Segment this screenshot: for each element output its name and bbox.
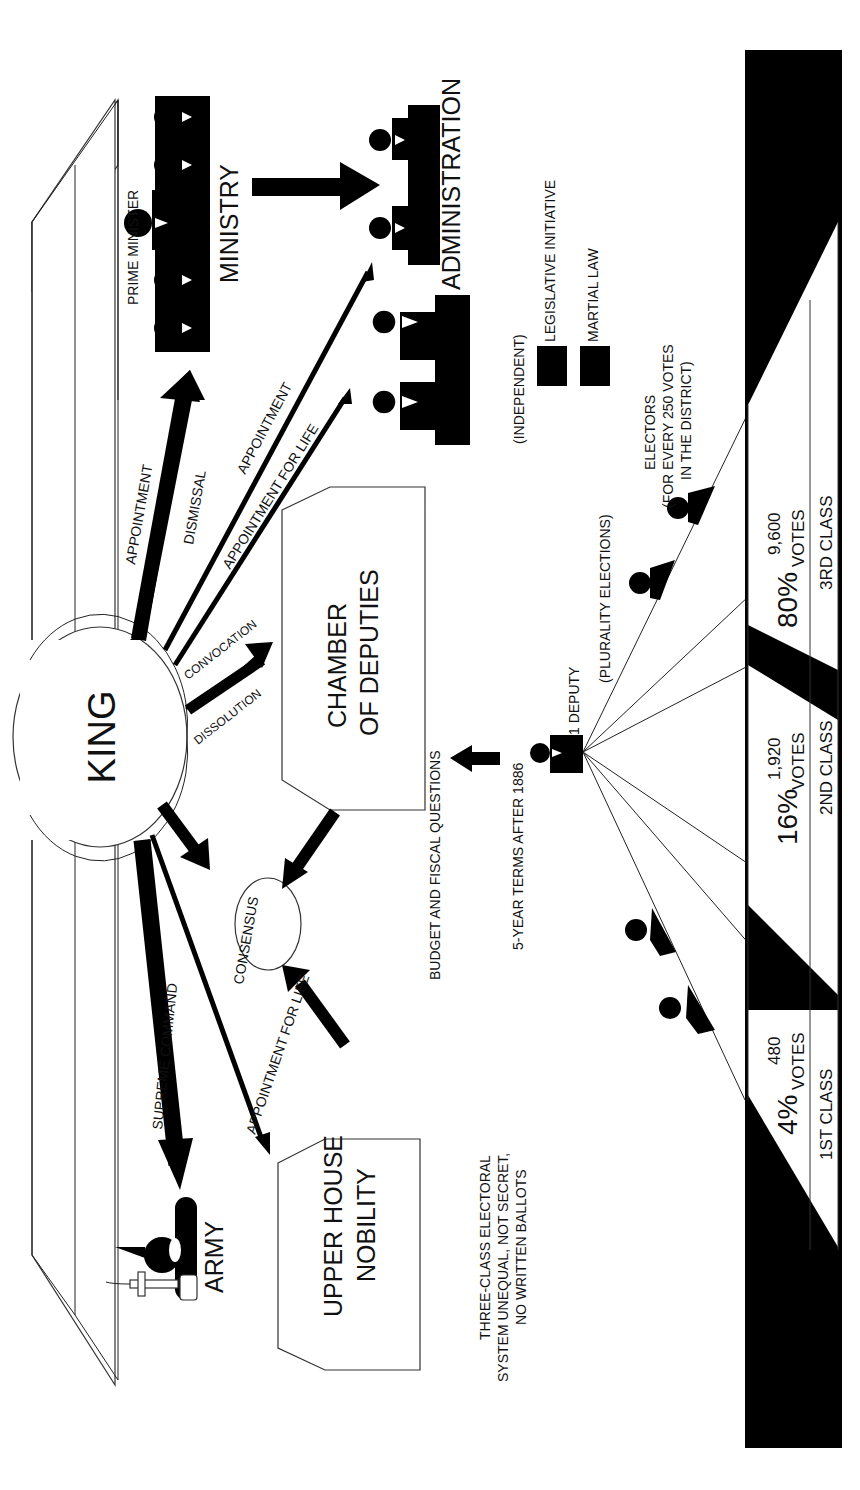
class-3-votes: 9,600 <box>765 512 784 555</box>
class-1-votes-word: VOTES <box>789 1032 808 1090</box>
class-3-name: 3RD CLASS <box>817 496 836 590</box>
class-2-name: 2ND CLASS <box>817 721 836 815</box>
class-2-votes: 1,920 <box>765 737 784 780</box>
class-3-percent: 80% <box>772 572 803 628</box>
class-2-votes-word: VOTES <box>789 732 808 790</box>
class-3-votes-word: VOTES <box>789 509 808 567</box>
class-2-percent: 16% <box>772 789 803 845</box>
class-1-votes: 480 <box>765 1037 784 1065</box>
prussian-constitution-diagram: KING PRIME MINISTER MINISTRY ADMINISTRAT… <box>0 0 860 1490</box>
class-1-name: 1ST CLASS <box>817 1069 836 1160</box>
class-1-percent: 4% <box>772 1095 803 1135</box>
class-bar-overlay: 80% VOTES 9,600 3RD CLASS 16% VOTES 1,92… <box>0 0 860 1490</box>
